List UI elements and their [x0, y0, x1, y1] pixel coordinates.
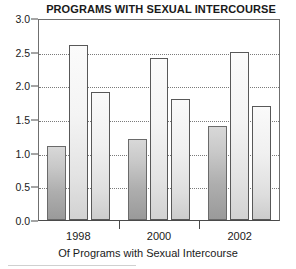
x-axis-title: Of Programs with Sexual Intercourse: [0, 246, 296, 260]
bar-1998-series-2: [69, 45, 88, 220]
y-tick-label: 0.0: [15, 216, 30, 227]
y-tick-label: 2.0: [15, 81, 30, 92]
bar-1998-series-3: [91, 92, 110, 220]
y-tick-mark: [31, 120, 38, 121]
y-tick-label: 0.5: [15, 182, 30, 193]
bar-1998-series-1: [47, 146, 66, 220]
x-tick-label: 1998: [66, 229, 90, 243]
bar-chart-figure: PROGRAMS WITH SEXUAL INTERCOURSE 0.00.51…: [0, 0, 296, 269]
footer-divider: [8, 265, 136, 266]
bar-2000-series-2: [150, 58, 169, 220]
bar-2002-series-1: [208, 126, 227, 220]
bar-2002-series-3: [252, 106, 271, 220]
y-tick-mark: [31, 187, 38, 188]
chart-title: PROGRAMS WITH SEXUAL INTERCOURSE: [30, 2, 292, 16]
y-tick-label: 1.5: [15, 115, 30, 126]
bar-2002-series-2: [230, 52, 249, 220]
y-tick-mark: [31, 221, 38, 222]
y-tick-mark: [31, 52, 38, 53]
bars-layer: [38, 19, 280, 221]
bar-2000-series-3: [171, 99, 190, 220]
y-tick-label: 2.5: [15, 47, 30, 58]
x-tick-label: 2000: [147, 229, 171, 243]
x-axis-tick-labels: 199820002002: [38, 229, 280, 245]
y-tick-label: 1.0: [15, 148, 30, 159]
y-tick-mark: [31, 86, 38, 87]
x-tick-label: 2002: [227, 229, 251, 243]
bar-2000-series-1: [128, 139, 147, 220]
x-tick-mark: [119, 221, 120, 229]
x-tick-mark: [199, 221, 200, 229]
y-tick-mark: [31, 19, 38, 20]
y-tick-label: 3.0: [15, 14, 30, 25]
y-tick-mark: [31, 153, 38, 154]
y-axis-tick-labels: 0.00.51.01.52.02.53.0: [0, 19, 30, 221]
